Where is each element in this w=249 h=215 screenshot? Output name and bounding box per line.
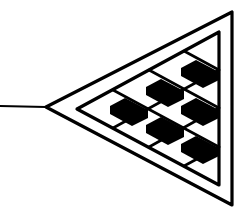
emblem-canvas: Line-art emblem: left-pointing double-ou… — [0, 0, 249, 215]
stem-line — [0, 106, 46, 107]
triangle-checkered-emblem-icon — [0, 0, 249, 215]
